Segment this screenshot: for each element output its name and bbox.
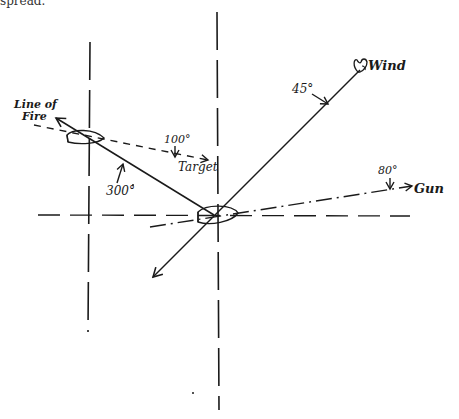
wind-angle-pointer — [312, 94, 328, 104]
wind-feather-icon — [354, 59, 367, 72]
target-label: Target — [178, 160, 218, 174]
wind-label: Wind — [368, 58, 406, 73]
vertical-dashed-line-left — [88, 42, 90, 332]
fire-angle-label: 300° — [106, 184, 135, 198]
ship-left-icon — [67, 130, 104, 143]
target-angle-label: 100° — [164, 133, 191, 146]
fire-angle-pointer — [117, 164, 123, 183]
gun-angle-label: 80° — [378, 164, 398, 177]
gun-line — [150, 186, 412, 227]
ship-center-icon — [198, 206, 238, 223]
wind-angle-label: 45° — [292, 82, 313, 96]
line-of-fire-label-line2: Fire — [22, 110, 47, 123]
gun-label: Gun — [414, 181, 444, 196]
bearing-diagram: spread. — [0, 0, 459, 419]
